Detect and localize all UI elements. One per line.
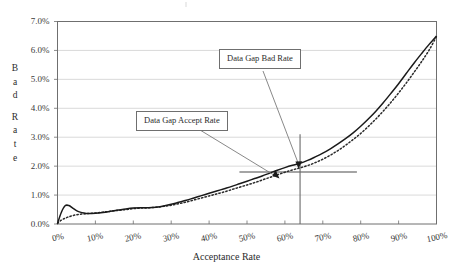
callout-data-gap-accept-rate[interactable]: Data Gap Accept Rate xyxy=(136,111,228,131)
y-title-letter-1: a xyxy=(8,76,22,90)
gridlines-group xyxy=(58,22,437,196)
y-title-letter-5: a xyxy=(8,124,22,138)
y-tick-label-1: 1.0% xyxy=(10,191,50,200)
reference-lines-group xyxy=(239,134,356,224)
y-title-letter-0: B xyxy=(8,62,22,76)
y-tick-label-6: 6.0% xyxy=(10,46,50,55)
y-title-letter-7: e xyxy=(8,152,22,166)
leader-line-bad-rate xyxy=(263,71,299,164)
x-axis-title: Acceptance Rate xyxy=(0,251,453,262)
y-title-letter-6: t xyxy=(8,138,22,152)
callout-data-gap-bad-rate[interactable]: Data Gap Bad Rate xyxy=(219,49,301,69)
y-tick-label-7: 7.0% xyxy=(10,17,50,26)
x-axis-tick-marks xyxy=(58,221,437,225)
y-tick-label-0: 0.0% xyxy=(10,220,50,229)
bad-rate-vs-acceptance-rate-chart: 0.0%1.0%2.0%3.0%4.0%5.0%6.0%7.0% 0%10%20… xyxy=(0,0,453,271)
y-title-letter-2: d xyxy=(8,89,22,103)
y-title-spacer xyxy=(8,103,22,111)
y-axis-title: BadRate xyxy=(8,62,22,165)
y-axis-tick-marks xyxy=(54,22,58,225)
y-title-letter-4: R xyxy=(8,111,22,125)
